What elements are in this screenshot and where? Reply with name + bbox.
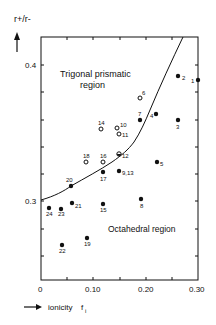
x-axis-arrow-icon — [36, 304, 42, 310]
scatter-chart: r+/r- 0.4 0.3 0 — [0, 0, 216, 325]
label-20: 20 — [66, 177, 73, 183]
x-axis-label: ionicity — [48, 303, 72, 312]
label-5: 5 — [160, 161, 164, 167]
y-tick-label-0.4: 0.4 — [25, 61, 37, 70]
label-4: 4 — [150, 113, 154, 119]
point-17 — [101, 170, 105, 174]
point-10 — [115, 126, 119, 130]
label-14: 14 — [98, 120, 105, 126]
point-3 — [176, 118, 180, 122]
region-label-trigonal-2: region — [80, 80, 105, 90]
y-axis-arrow-icon — [14, 32, 20, 40]
label-23: 23 — [58, 211, 65, 217]
label-8: 8 — [140, 203, 144, 209]
label-6: 6 — [142, 90, 146, 96]
point-22 — [60, 243, 64, 247]
label-17: 17 — [100, 176, 107, 182]
x-axis-subscript: i — [85, 308, 86, 314]
point-8 — [139, 197, 143, 201]
point-21 — [70, 201, 74, 205]
label-1: 1 — [191, 78, 195, 84]
y-tick-label-0.3: 0.3 — [25, 197, 37, 206]
label-15: 15 — [100, 207, 107, 213]
open-points — [84, 96, 142, 164]
region-label-octahedral: Octahedral region — [108, 224, 176, 234]
label-7: 7 — [138, 111, 142, 117]
label-10: 10 — [120, 122, 127, 128]
point-2 — [176, 74, 180, 78]
x-tick-label-0.20: 0.20 — [138, 285, 154, 294]
point-15 — [101, 202, 105, 206]
point-9-13 — [117, 169, 121, 173]
label-22: 22 — [59, 248, 66, 254]
point-20 — [69, 184, 73, 188]
boundary-curve — [41, 37, 183, 200]
label-9-13: 9,13 — [122, 170, 134, 176]
y-axis-label: r+/r- — [14, 14, 31, 24]
label-21: 21 — [75, 203, 82, 209]
label-12: 12 — [122, 153, 129, 159]
filled-points — [47, 74, 200, 247]
point-11 — [117, 132, 121, 136]
label-2: 2 — [182, 75, 186, 81]
point-6 — [138, 96, 142, 100]
point-14 — [99, 127, 103, 131]
x-tick-label-0.30: 0.30 — [189, 285, 205, 294]
point-1 — [196, 78, 200, 82]
point-16 — [101, 160, 105, 164]
x-axis-symbol: f — [81, 303, 84, 312]
point-18 — [84, 160, 88, 164]
region-label-trigonal: Trigonal prismatic — [60, 69, 131, 79]
label-18: 18 — [83, 153, 90, 159]
point-5 — [155, 160, 159, 164]
point-24 — [47, 206, 51, 210]
x-tick-label-0: 0 — [38, 285, 43, 294]
label-11: 11 — [122, 132, 129, 138]
point-19 — [85, 236, 89, 240]
x-tick-label-0.10: 0.10 — [85, 285, 101, 294]
point-4 — [154, 112, 158, 116]
label-24: 24 — [46, 211, 53, 217]
label-16: 16 — [100, 153, 107, 159]
point-7 — [138, 118, 142, 122]
label-3: 3 — [176, 124, 180, 130]
label-19: 19 — [84, 241, 91, 247]
